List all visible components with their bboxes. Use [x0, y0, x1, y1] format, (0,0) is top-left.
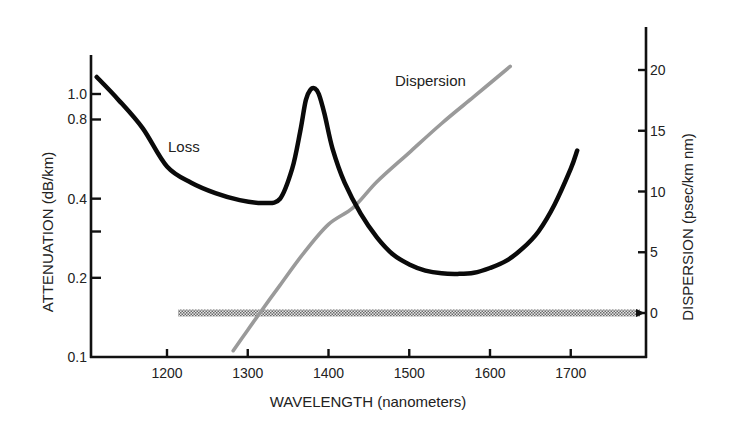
x-tick-label: 1400: [313, 365, 344, 381]
y-axis-ticks: 0.10.20.40.81.0: [68, 86, 101, 365]
y2-tick-label: 0: [650, 305, 658, 321]
loss-annotation: Loss: [168, 138, 200, 155]
y-axis-title: ATTENUATION (dB/km): [39, 152, 56, 312]
zero-arrow-marker: [636, 309, 645, 317]
dispersion-annotation: Dispersion: [395, 72, 466, 89]
x-tick-label: 1700: [555, 365, 586, 381]
y2-tick-label: 5: [650, 244, 658, 260]
dispersion-curve: [233, 66, 510, 350]
x-tick-label: 1200: [151, 365, 182, 381]
x-tick-label: 1500: [394, 365, 425, 381]
y-tick-label: 1.0: [68, 86, 88, 102]
x-tick-label: 1300: [232, 365, 263, 381]
y-tick-label: 0.2: [68, 270, 88, 286]
y2-axis-title: DISPERSION (psec/km nm): [679, 133, 696, 321]
y2-tick-label: 20: [650, 62, 666, 78]
loss-curve: [97, 77, 578, 274]
x-tick-label: 1600: [474, 365, 505, 381]
y-tick-label: 0.1: [68, 349, 88, 365]
y-tick-label: 0.4: [68, 191, 88, 207]
y2-tick-label: 10: [650, 184, 666, 200]
y-tick-label: 0.8: [68, 111, 88, 127]
fiber-loss-dispersion-chart: 120013001400150016001700 0.10.20.40.81.0…: [0, 0, 737, 434]
y2-axis-ticks: 05101520: [638, 62, 666, 321]
x-axis-title: WAVELENGTH (nanometers): [270, 393, 467, 410]
x-axis-ticks: 120013001400150016001700: [151, 349, 586, 381]
y2-tick-label: 15: [650, 123, 666, 139]
